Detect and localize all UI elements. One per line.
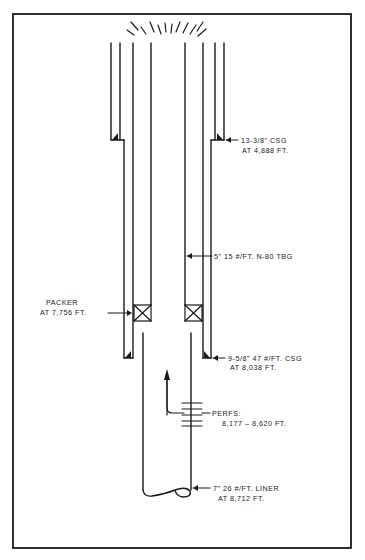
label-intermediate-casing-line2: AT 8,038 FT. bbox=[230, 363, 276, 372]
label-perforations-line1: PERFS: bbox=[212, 409, 241, 418]
arrow-head-icon bbox=[193, 485, 198, 491]
label-liner-line1: 7" 26 #/FT. LINER bbox=[213, 484, 279, 493]
label-surface-casing-line2: AT 4,888 FT. bbox=[242, 146, 288, 155]
flow-arrow-head-icon bbox=[164, 369, 170, 380]
arrow-head-icon bbox=[213, 355, 218, 361]
liner-break-icon bbox=[143, 488, 190, 497]
label-packer-line2: AT 7,756 FT. bbox=[40, 308, 86, 317]
diagram-frame bbox=[13, 14, 351, 548]
label-packer-line1: PACKER bbox=[46, 298, 78, 307]
flow-rays-icon bbox=[127, 22, 206, 36]
label-liner-line2: AT 8,712 FT. bbox=[218, 494, 264, 503]
label-intermediate-casing-line1: 9-5/8" 47 #/FT. CSG bbox=[228, 354, 302, 363]
liner-upper bbox=[133, 43, 203, 358]
label-tubing: 5" 15 #/FT. N-80 TBG bbox=[214, 252, 293, 261]
casing-shoe-13-3-8-right bbox=[217, 133, 223, 140]
wellbore-diagram: 13-3/8" CSG AT 4,888 FT. 5" 15 #/FT. N-8… bbox=[0, 0, 365, 560]
arrow-head-icon bbox=[226, 137, 231, 143]
casing-13-3-8 bbox=[111, 43, 224, 140]
casing-shoe-9-5-8-left bbox=[125, 351, 131, 358]
casing-shoe-9-5-8-right bbox=[204, 351, 210, 358]
label-perforations-line2: 8,177 – 8,620 FT. bbox=[222, 419, 286, 428]
label-surface-casing-line1: 13-3/8" CSG bbox=[241, 136, 287, 145]
casing-shoe-13-3-8-left bbox=[112, 133, 118, 140]
tubing-5in bbox=[143, 43, 191, 490]
arrow-head-icon bbox=[127, 310, 132, 316]
packer-icon bbox=[134, 305, 202, 321]
perforations-icon bbox=[182, 403, 202, 426]
arrow-head-icon bbox=[187, 253, 192, 259]
flow-path bbox=[167, 378, 184, 413]
